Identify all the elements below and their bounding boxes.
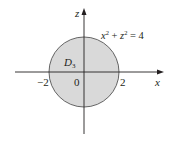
tick-origin: 0 <box>74 76 80 88</box>
tick-pos2: 2 <box>120 76 126 88</box>
x-axis-arrow-icon <box>157 70 164 75</box>
eq-rhs: = 4 <box>127 30 144 41</box>
z-axis-arrow-icon <box>82 8 87 15</box>
region-label-sub: 3 <box>72 62 76 70</box>
eq-plus: + <box>109 30 120 41</box>
x-axis-label: x <box>154 76 160 88</box>
circle-equation: x2 + z2 = 4 <box>100 29 145 41</box>
region-label-main: D <box>63 56 72 68</box>
disk-diagram: z x −2 0 2 D3 x2 + z2 = 4 <box>0 0 169 142</box>
z-axis-label: z <box>74 7 80 19</box>
tick-neg2: −2 <box>37 76 49 88</box>
